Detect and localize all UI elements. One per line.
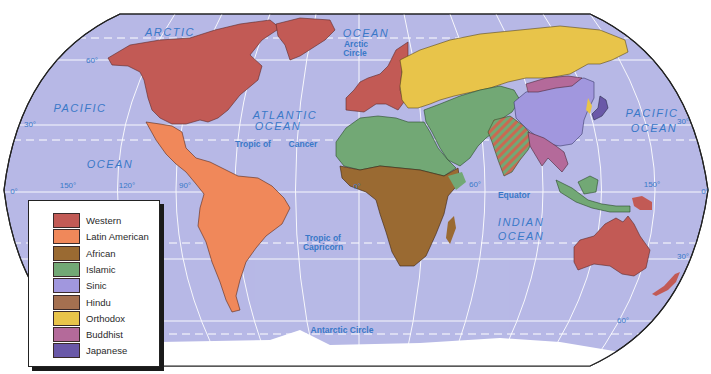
legend-swatch [53, 246, 80, 261]
ocean-label: INDIAN [498, 216, 544, 228]
legend: WesternLatin AmericanAfricanIslamicSinic… [28, 200, 160, 367]
legend-item-western: Western [53, 213, 121, 228]
degree-label: 150° [644, 180, 661, 189]
legend-label: Hindu [86, 297, 111, 308]
legend-item-islamic: Islamic [53, 262, 116, 277]
legend-label: African [86, 248, 116, 259]
legend-label: Buddhist [86, 329, 123, 340]
legend-swatch [53, 327, 80, 342]
degree-label: 120° [119, 181, 136, 190]
latitude-line-label: Tropic of [235, 139, 271, 149]
legend-item-buddhist: Buddhist [53, 327, 123, 342]
legend-label: Western [86, 215, 121, 226]
legend-swatch [53, 295, 80, 310]
latitude-line-label: Circle [343, 48, 367, 58]
legend-swatch [53, 311, 80, 326]
degree-label: 0° [10, 187, 18, 196]
degree-label: 30° [677, 252, 689, 261]
legend-swatch [53, 278, 80, 293]
legend-swatch [53, 229, 80, 244]
legend-label: Sinic [86, 280, 107, 291]
ocean-label: PACIFIC [625, 107, 678, 119]
degree-label: 60° [86, 56, 98, 65]
legend-item-sinic: Sinic [53, 278, 107, 293]
latitude-line-label: Capricorn [303, 242, 343, 252]
ocean-label: ARCTIC [144, 26, 195, 38]
degree-label: 60° [617, 316, 629, 325]
degree-label: 60° [469, 180, 481, 189]
legend-swatch [53, 213, 80, 228]
degree-label: 30° [24, 120, 36, 129]
legend-swatch [53, 262, 80, 277]
degree-label: 90° [179, 181, 191, 190]
ocean-label: OCEAN [498, 230, 545, 242]
latitude-line-label: Antarctic Circle [311, 325, 374, 335]
ocean-label: OCEAN [631, 122, 678, 134]
degree-label: 0° [353, 182, 361, 191]
latitude-line-label: Equator [498, 190, 531, 200]
degree-label: 150° [60, 181, 77, 190]
legend-label: Islamic [86, 264, 116, 275]
ocean-label: OCEAN [87, 158, 134, 170]
ocean-label: OCEAN [255, 120, 302, 132]
legend-swatch [53, 343, 80, 358]
degree-label: 0° [701, 187, 709, 196]
legend-item-orthodox: Orthodox [53, 311, 125, 326]
ocean-label: OCEAN [343, 27, 390, 39]
legend-item-african: African [53, 246, 116, 261]
legend-label: Orthodox [86, 313, 125, 324]
legend-label: Latin American [86, 231, 149, 242]
degree-label: 30° [677, 117, 689, 126]
legend-label: Japanese [86, 345, 127, 356]
legend-item-hindu: Hindu [53, 295, 111, 310]
legend-item-japanese: Japanese [53, 343, 127, 358]
ocean-label: PACIFIC [53, 102, 106, 114]
latitude-line-label: Cancer [289, 139, 319, 149]
legend-item-latin-american: Latin American [53, 229, 149, 244]
